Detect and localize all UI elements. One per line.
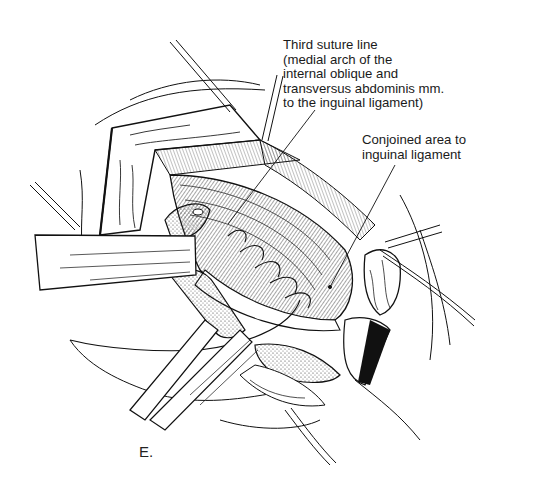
callout-text-line: Third suture line [283, 38, 444, 53]
callout-conjoined-area: Conjoined area to inguinal ligament [362, 133, 466, 162]
panel-label: E. [139, 443, 153, 460]
surgical-illustration [0, 0, 551, 487]
callout-text-line: to the inguinal ligament) [283, 96, 444, 111]
callout-text-line: (medial arch of the [283, 53, 444, 68]
retractor-lower [130, 320, 258, 430]
callout-text-line: inguinal ligament [362, 148, 466, 163]
callout-text-line: internal oblique and [283, 67, 444, 82]
callout-text-line: Conjoined area to [362, 133, 466, 148]
retractor-left [35, 235, 196, 290]
callout-third-suture-line: Third suture line (medial arch of the in… [283, 38, 444, 111]
callout-text-line: transversus abdominis mm. [283, 82, 444, 97]
